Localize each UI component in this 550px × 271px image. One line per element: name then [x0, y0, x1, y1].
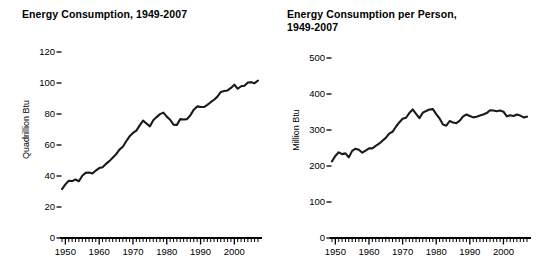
figure-energy-consumption-per-person: Energy Consumption per Person, 1949-2007…: [275, 0, 550, 271]
x-tick-label: 1950: [325, 246, 346, 257]
y-tick-label: 20: [44, 201, 55, 212]
y-tick-label: 100: [39, 77, 55, 88]
y-tick-label: 40: [44, 170, 55, 181]
x-tick-label: 1980: [156, 246, 177, 257]
x-tick-label: 1950: [55, 246, 76, 257]
y-axis-title: Quadrillion Btu: [21, 100, 31, 159]
x-tick-label: 2000: [493, 246, 514, 257]
x-tick-label: 1990: [459, 246, 480, 257]
x-tick-label: 1980: [426, 246, 447, 257]
y-tick-label: 120: [39, 46, 55, 57]
y-tick-label: 400: [309, 88, 325, 99]
plot-energy-consumption-per-person: 0100200300400500Million Btu1950196019701…: [275, 0, 550, 271]
x-tick-label: 2000: [224, 246, 245, 257]
y-tick-label: 500: [309, 52, 325, 63]
y-tick-label: 100: [309, 196, 325, 207]
x-tick-label: 1990: [190, 246, 211, 257]
x-tick-label: 1970: [392, 246, 413, 257]
x-tick-label: 1970: [122, 246, 143, 257]
figure-energy-consumption: Energy Consumption, 1949-2007 0204060801…: [0, 0, 275, 271]
y-tick-label: 80: [44, 108, 55, 119]
y-tick-label: 60: [44, 139, 55, 150]
y-tick-label: 0: [50, 232, 55, 243]
x-tick-label: 1960: [89, 246, 110, 257]
y-tick-label: 300: [309, 124, 325, 135]
plot-energy-consumption: 020406080100120Quadrillion Btu1950196019…: [0, 0, 275, 271]
data-series-line: [332, 109, 527, 161]
y-tick-label: 0: [320, 232, 325, 243]
x-tick-label: 1960: [358, 246, 379, 257]
y-tick-label: 200: [309, 160, 325, 171]
data-series-line: [62, 81, 258, 190]
y-axis-title: Million Btu: [291, 109, 301, 151]
